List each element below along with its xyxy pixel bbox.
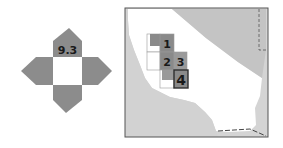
tile-label-2: 2 (163, 56, 171, 69)
grid-tile-blank (160, 70, 174, 88)
compass-center (53, 57, 82, 85)
map-tile-3[interactable] (174, 52, 187, 70)
compass-arrow-east[interactable] (82, 57, 112, 85)
compass-arrow-west[interactable] (21, 57, 53, 85)
grid-tile-blank (147, 52, 160, 70)
ocean-region (125, 8, 218, 137)
nevada-region (172, 9, 266, 78)
tile-label-4: 4 (176, 72, 186, 88)
compass-arrow-south[interactable] (53, 85, 82, 113)
map-background (125, 8, 268, 137)
map-tile-4[interactable] (174, 70, 188, 88)
state-border (259, 9, 266, 50)
grid-tile-shade (150, 34, 160, 46)
map-frame (125, 8, 268, 137)
page-number-label: 9.3 (58, 44, 78, 57)
map-tile-2[interactable] (160, 52, 174, 70)
california-land (128, 9, 262, 132)
compass-rose: 9.3 (0, 0, 120, 148)
grid-tile-shade (162, 70, 174, 80)
map-tile-1[interactable] (160, 34, 174, 52)
grid-tile-blank (147, 34, 160, 52)
tile-label-1: 1 (163, 38, 171, 51)
tile-label-3: 3 (177, 56, 185, 69)
mexico-border (218, 129, 266, 136)
